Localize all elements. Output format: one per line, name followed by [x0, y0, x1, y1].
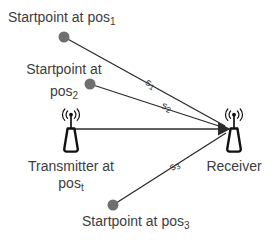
- startpoint3-label: Startpoint at pos3: [82, 213, 190, 229]
- startpoint3-text: Startpoint at pos: [82, 213, 184, 229]
- transmitter-line1: Transmitter at: [28, 158, 114, 174]
- startpoint1-label: Startpoint at pos1: [8, 9, 116, 25]
- receiver-antenna-icon: [225, 109, 242, 152]
- startpoint2-line2: pos: [50, 83, 73, 99]
- diagram-stage: Startpoint at pos1 Startpoint at pos2 Tr…: [0, 0, 278, 245]
- transmitter-antenna-icon: [62, 109, 79, 152]
- transmitter-sub: t: [81, 182, 84, 193]
- startpoint2-line1: Startpoint at: [26, 61, 102, 77]
- startpoint1-marker: [59, 32, 70, 43]
- receiver-label: Receiver: [201, 158, 267, 174]
- transmitter-label: Transmitter at post: [20, 158, 122, 192]
- startpoint1-sub: 1: [110, 16, 116, 27]
- startpoint3-marker: [108, 200, 119, 211]
- startpoint3-sub: 3: [184, 220, 190, 231]
- receiver-text: Receiver: [206, 158, 261, 174]
- startpoint2-sub: 2: [73, 90, 79, 101]
- startpoint2-label: Startpoint at pos2: [18, 58, 110, 102]
- diagram-canvas: [0, 0, 278, 245]
- path-s2-line: [90, 84, 225, 128]
- transmitter-line2: pos: [58, 175, 81, 191]
- startpoint1-text: Startpoint at pos: [8, 9, 110, 25]
